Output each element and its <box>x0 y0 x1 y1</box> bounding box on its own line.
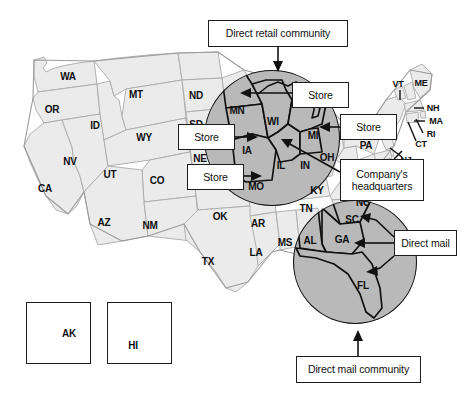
state-nd <box>178 52 222 80</box>
state-ri <box>420 111 426 118</box>
arrow-direct-mail-community <box>353 330 363 341</box>
hl-in <box>300 128 322 154</box>
callout-direct-retail-community[interactable]: Direct retail community <box>208 20 348 47</box>
callout-direct-mail-community[interactable]: Direct mail community <box>296 356 421 383</box>
callout-direct-mail[interactable]: Direct mail <box>394 230 457 256</box>
callout-store-top[interactable]: Store <box>292 82 349 108</box>
state-ma <box>404 100 424 112</box>
inset-box-hawaii <box>107 302 172 364</box>
tick-ct <box>408 122 416 141</box>
map-figure: WA OR MT ID ND SD WY NE NV UT CO CA AZ N… <box>0 0 475 401</box>
callout-company-headquarters[interactable]: Company's headquarters <box>340 159 424 201</box>
inset-box-alaska <box>26 302 91 364</box>
callout-store-right[interactable]: Store <box>340 114 397 140</box>
callout-store-left-lower[interactable]: Store <box>187 164 244 190</box>
callout-store-left-upper[interactable]: Store <box>178 124 235 150</box>
